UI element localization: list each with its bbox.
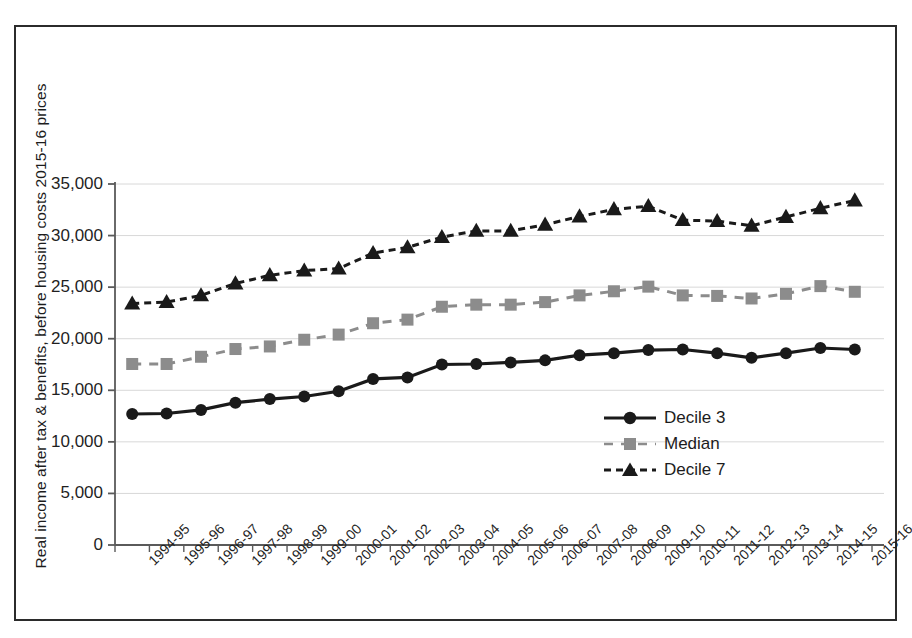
legend-key-circle-icon bbox=[602, 408, 658, 428]
data-point bbox=[264, 340, 276, 352]
data-point bbox=[468, 223, 484, 237]
data-point bbox=[126, 358, 138, 370]
data-point bbox=[640, 198, 656, 212]
data-point bbox=[229, 343, 241, 355]
data-point bbox=[642, 281, 654, 293]
data-point bbox=[574, 289, 586, 301]
data-point bbox=[503, 223, 519, 237]
data-point bbox=[606, 201, 622, 215]
legend-key-square-icon bbox=[602, 434, 658, 454]
data-point bbox=[746, 292, 758, 304]
data-point bbox=[436, 301, 448, 313]
data-point bbox=[780, 347, 792, 359]
legend-item-median: Median bbox=[602, 431, 725, 457]
chart-legend: Decile 3 Median Decile 7 bbox=[602, 405, 725, 483]
y-tick-label: 25,000 bbox=[29, 278, 103, 295]
data-point bbox=[608, 285, 620, 297]
data-point bbox=[711, 290, 723, 302]
data-point bbox=[505, 299, 517, 311]
y-tick-label: 15,000 bbox=[29, 381, 103, 398]
y-tick-label: 10,000 bbox=[29, 433, 103, 450]
data-point bbox=[642, 344, 654, 356]
data-point bbox=[367, 317, 379, 329]
data-point bbox=[780, 288, 792, 300]
legend-label-decile-7: Decile 7 bbox=[664, 460, 725, 480]
data-point bbox=[264, 393, 276, 405]
data-point bbox=[298, 390, 310, 402]
data-point bbox=[746, 352, 758, 364]
y-tick-label: 30,000 bbox=[29, 227, 103, 244]
data-point bbox=[333, 329, 345, 341]
data-point bbox=[436, 359, 448, 371]
data-point bbox=[161, 358, 173, 370]
chart-canvas: Real income after tax & benefits, before… bbox=[16, 27, 899, 623]
data-point bbox=[195, 351, 207, 363]
data-point bbox=[126, 408, 138, 420]
data-point bbox=[675, 212, 691, 226]
data-point bbox=[849, 344, 861, 356]
data-point bbox=[677, 344, 689, 356]
data-point bbox=[677, 289, 689, 301]
data-point bbox=[195, 404, 207, 416]
data-point bbox=[229, 397, 241, 409]
y-tick-label: 5,000 bbox=[29, 484, 103, 501]
data-point bbox=[814, 280, 826, 292]
data-point bbox=[711, 347, 723, 359]
data-point bbox=[401, 371, 413, 383]
legend-item-decile-7: Decile 7 bbox=[602, 457, 725, 483]
data-point bbox=[333, 385, 345, 397]
legend-item-decile-3: Decile 3 bbox=[602, 405, 725, 431]
data-point bbox=[298, 334, 310, 346]
data-point bbox=[505, 356, 517, 368]
data-point bbox=[401, 314, 413, 326]
data-point bbox=[161, 407, 173, 419]
data-point bbox=[847, 192, 863, 206]
figure-frame: Real income after tax & benefits, before… bbox=[14, 25, 897, 621]
data-point bbox=[571, 208, 587, 222]
data-point bbox=[470, 358, 482, 370]
legend-label-median: Median bbox=[664, 434, 720, 454]
y-tick-label: 0 bbox=[29, 536, 103, 553]
legend-label-decile-3: Decile 3 bbox=[664, 408, 725, 428]
data-point bbox=[539, 296, 551, 308]
series-decile-7 bbox=[124, 192, 863, 309]
data-point bbox=[814, 342, 826, 354]
data-point bbox=[470, 299, 482, 311]
data-point bbox=[537, 217, 553, 231]
y-tick-label: 20,000 bbox=[29, 330, 103, 347]
data-point bbox=[849, 286, 861, 298]
data-point bbox=[608, 347, 620, 359]
data-point bbox=[574, 349, 586, 361]
legend-key-triangle-icon bbox=[602, 460, 658, 480]
data-point bbox=[539, 354, 551, 366]
data-point bbox=[367, 373, 379, 385]
y-tick-label: 35,000 bbox=[29, 175, 103, 192]
